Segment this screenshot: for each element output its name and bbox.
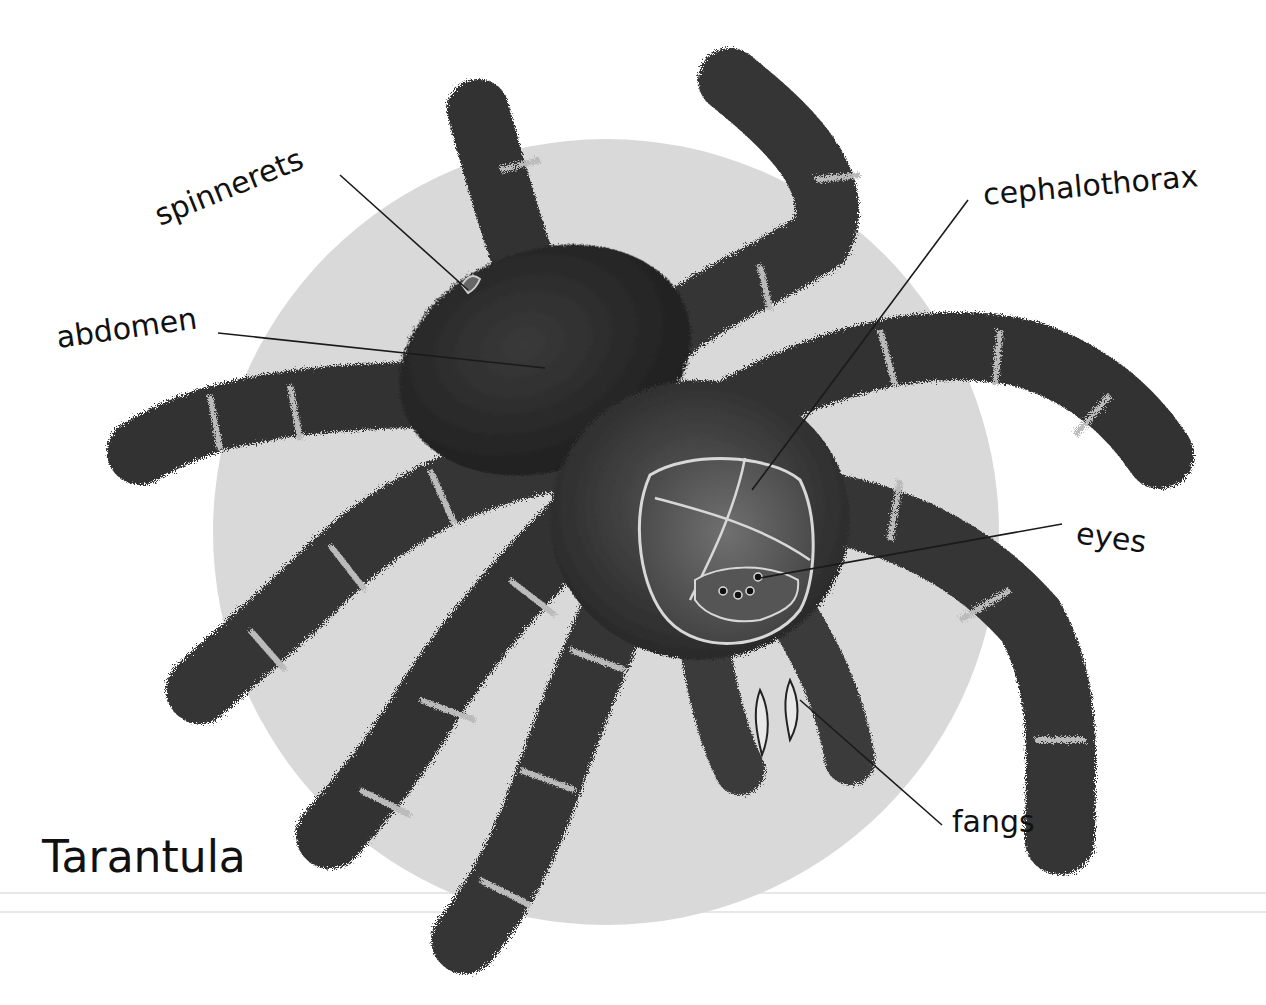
label-spinnerets: spinnerets [150,141,309,232]
tarantula-diagram: spinnerets abdomen cephalothorax eyes fa… [0,0,1266,1005]
label-fangs: fangs [952,804,1035,839]
label-abdomen: abdomen [54,301,199,355]
diagram-canvas: spinnerets abdomen cephalothorax eyes fa… [0,0,1266,1005]
cephalothorax-shape [640,458,814,643]
diagram-title: Tarantula [41,831,246,882]
label-cephalothorax: cephalothorax [982,158,1200,212]
label-eyes: eyes [1074,515,1148,559]
